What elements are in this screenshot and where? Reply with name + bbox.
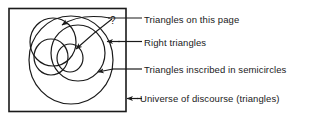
label-universe-of-discourse: Universe of discourse (triangles): [140, 93, 280, 104]
question-mark-annotation: ?: [110, 15, 116, 26]
label-triangles-on-this-page: Triangles on this page: [144, 14, 239, 25]
label-triangles-inscribed-in-semicircles: Triangles inscribed in semicircles: [144, 64, 286, 75]
label-right-triangles: Right triangles: [144, 37, 206, 48]
figure-container: ? Triangles on this page Right triangles…: [0, 0, 317, 121]
circle-large-outer: [29, 16, 113, 104]
curved-arrow-triangles-on-page-a: [62, 17, 110, 25]
